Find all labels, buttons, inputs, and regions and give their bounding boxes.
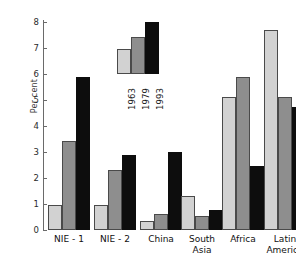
legend-labels: 196319791993: [116, 76, 162, 114]
bar-group: [181, 22, 223, 230]
legend-swatch: [145, 22, 159, 74]
y-axis-tick-label: 1: [22, 200, 39, 209]
bar: [236, 77, 250, 230]
y-axis-tick: [43, 22, 47, 23]
legend-swatch: [131, 37, 145, 74]
y-axis-tick: [43, 178, 47, 179]
y-axis-tick-label-text: 7: [22, 44, 39, 53]
y-axis-tick-label: 3: [22, 148, 39, 157]
bar: [122, 155, 136, 230]
bar: [108, 170, 122, 230]
bar: [222, 97, 236, 230]
y-axis-tick-label-text: 5: [22, 96, 39, 105]
y-axis-tick: [43, 74, 47, 75]
y-axis-tick-label: 6: [22, 70, 39, 79]
bar: [209, 210, 223, 230]
bar-chart: Per cent 012345678 NIE - 1NIE - 2ChinaSo…: [0, 0, 296, 271]
bar: [292, 107, 296, 231]
bar: [278, 97, 292, 230]
y-axis-tick-label-text: 8: [22, 18, 39, 27]
y-axis-tick-label: 5: [22, 96, 39, 105]
legend-entry-label: 1993: [155, 88, 165, 110]
bar: [250, 166, 264, 230]
y-axis-tick-label: 4: [22, 122, 39, 131]
bar: [140, 221, 154, 230]
bar: [264, 30, 278, 230]
bar-group: [48, 22, 90, 230]
legend-swatch: [117, 49, 131, 74]
y-axis-tick: [43, 100, 47, 101]
y-axis-tick-label: 8: [22, 18, 39, 27]
y-axis-tick-label-text: 4: [22, 122, 39, 131]
x-axis-category-label: Latin America: [257, 234, 296, 256]
y-axis-tick-label-text: 1: [22, 200, 39, 209]
bar: [168, 152, 182, 230]
y-axis-tick-label-text: 6: [22, 70, 39, 79]
y-axis-tick-label: 2: [22, 174, 39, 183]
y-axis-tick-label-text: 3: [22, 148, 39, 157]
y-axis-tick: [43, 48, 47, 49]
legend-entry-label: 1963: [127, 88, 137, 110]
y-axis-tick-label-text: 2: [22, 174, 39, 183]
legend-entry-label: 1979: [141, 88, 151, 110]
y-axis-tick: [43, 126, 47, 127]
y-axis-tick: [43, 152, 47, 153]
y-axis-tick-label: 7: [22, 44, 39, 53]
legend-swatches: [117, 22, 161, 74]
y-axis-tick-label: 0: [22, 226, 39, 235]
bar: [195, 216, 209, 230]
bar: [154, 214, 168, 230]
bar: [62, 141, 76, 230]
y-axis-tick-label-text: 0: [22, 226, 39, 235]
bar: [181, 196, 195, 230]
bar-group: [222, 22, 264, 230]
bar: [48, 205, 62, 230]
y-axis-tick: [43, 204, 47, 205]
bar: [76, 77, 90, 230]
bar-group: [264, 22, 296, 230]
y-axis-tick: [43, 230, 47, 231]
bar: [94, 205, 108, 230]
